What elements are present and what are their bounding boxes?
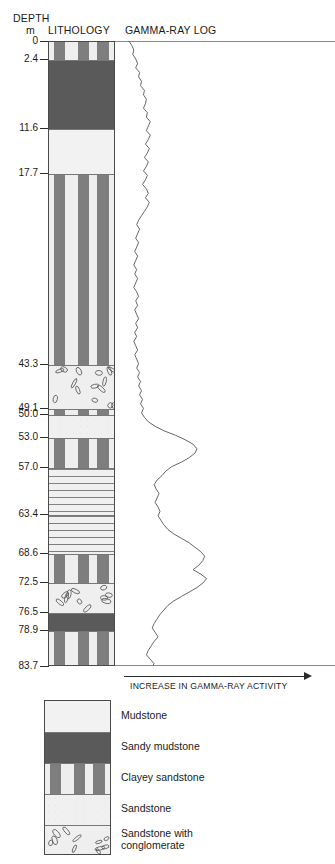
lithology-bed	[49, 174, 114, 365]
gamma-log-bottom-rule	[115, 665, 335, 666]
depth-tick-label: 43.3	[4, 358, 38, 369]
legend-swatch-column	[44, 700, 111, 855]
pebble-pattern-icon	[49, 584, 114, 613]
lithology-bed	[49, 438, 114, 468]
legend-swatch	[45, 794, 110, 825]
lithology-bed	[49, 515, 114, 554]
lithology-bed	[49, 129, 114, 175]
lithology-bed	[49, 554, 114, 583]
depth-column-title: DEPTH	[13, 12, 50, 24]
legend-label: Sandstone with conglomerate	[121, 827, 193, 852]
lithology-bed	[49, 415, 114, 437]
pebble-pattern-icon	[45, 826, 110, 855]
gamma-ray-curve	[129, 41, 207, 666]
depth-tick-label: 83.7	[4, 660, 38, 671]
depth-tick-label: 76.5	[4, 606, 38, 617]
depth-tick-label: 72.5	[4, 576, 38, 587]
legend-swatch	[45, 732, 110, 763]
well-log-figure: DEPTH m LITHOLOGY GAMMA-RAY LOG 02.411.6…	[0, 0, 335, 864]
legend-label: Sandstone	[121, 802, 171, 815]
lithology-bed	[49, 613, 114, 631]
depth-tick-label: 78.9	[4, 624, 38, 635]
gamma-ray-log-title: GAMMA-RAY LOG	[125, 24, 216, 36]
lithology-column-title: LITHOLOGY	[48, 24, 110, 36]
gamma-ray-plot	[115, 41, 335, 666]
lithology-bed	[49, 42, 114, 60]
depth-tick-label: 17.7	[4, 167, 38, 178]
depth-tick-mark	[40, 666, 49, 667]
gamma-ray-curve-svg	[115, 41, 335, 666]
depth-tick-label: 0	[4, 35, 38, 46]
lithology-bed	[49, 631, 114, 666]
legend-label: Clayey sandstone	[121, 771, 204, 784]
lithology-column	[48, 41, 115, 666]
arrow-right-icon	[304, 672, 312, 680]
lithology-bed	[49, 60, 114, 129]
axis-line	[124, 676, 306, 677]
depth-tick-label: 53.0	[4, 431, 38, 442]
lithology-bed	[49, 409, 114, 416]
depth-tick-label: 50.0	[4, 408, 38, 419]
legend-label: Sandy mudstone	[121, 740, 200, 753]
legend-swatch	[45, 825, 110, 855]
lithology-bed	[49, 583, 114, 613]
depth-tick-label: 2.4	[4, 53, 38, 64]
lithology-bed	[49, 468, 114, 516]
gamma-axis-label: INCREASE IN GAMMA-RAY ACTIVITY	[130, 681, 288, 691]
depth-tick-label: 63.4	[4, 508, 38, 519]
depth-tick-label: 68.6	[4, 547, 38, 558]
depth-tick-label: 57.0	[4, 461, 38, 472]
legend-swatch	[45, 701, 110, 732]
lithology-bed	[49, 365, 114, 408]
depth-tick-label: 11.6	[4, 122, 38, 133]
pebble-pattern-icon	[49, 366, 114, 408]
legend-swatch	[45, 763, 110, 794]
legend-label: Mudstone	[121, 709, 167, 722]
